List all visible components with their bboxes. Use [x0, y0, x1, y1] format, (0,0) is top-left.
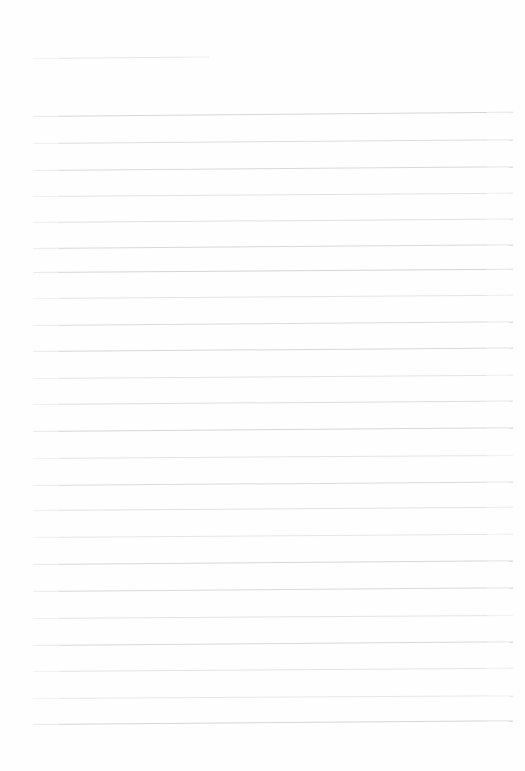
handwritten-text [0, 0, 525, 771]
scanned-page [0, 0, 525, 771]
